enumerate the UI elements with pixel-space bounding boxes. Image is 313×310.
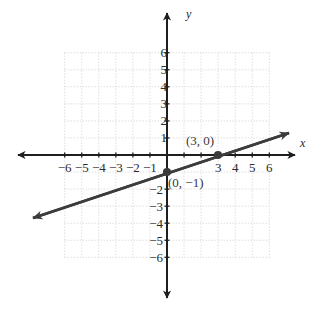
x-tick-label: 5 bbox=[243, 161, 261, 174]
y-tick-label: −5 bbox=[145, 234, 163, 247]
x-tick-label: −3 bbox=[107, 161, 125, 174]
point-3-0 bbox=[214, 151, 222, 159]
y-tick-label: 2 bbox=[149, 114, 167, 127]
y-tick-label: 3 bbox=[149, 97, 167, 110]
x-axis-letter: x bbox=[300, 137, 305, 149]
x-tick-label: 6 bbox=[260, 161, 278, 174]
point-label-3-0: (3, 0) bbox=[186, 134, 214, 147]
y-tick-label: −2 bbox=[145, 183, 163, 196]
x-tick-label: 3 bbox=[209, 161, 227, 174]
coordinate-plane-figure: −6−5−4−3−2−13456654321−2−3−4−5−6 y x (3,… bbox=[0, 0, 313, 310]
y-tick-label: −6 bbox=[145, 251, 163, 264]
x-tick-label: −4 bbox=[90, 161, 108, 174]
x-tick-label: −6 bbox=[56, 161, 74, 174]
y-tick-label: 5 bbox=[149, 63, 167, 76]
y-tick-label: 4 bbox=[149, 80, 167, 93]
y-tick-label: −3 bbox=[145, 200, 163, 213]
y-tick-label: −4 bbox=[145, 217, 163, 230]
y-tick-label: 6 bbox=[149, 46, 167, 59]
y-tick-label: 1 bbox=[149, 131, 167, 144]
x-tick-label: 4 bbox=[226, 161, 244, 174]
x-tick-label: −5 bbox=[73, 161, 91, 174]
x-tick-label: −1 bbox=[141, 161, 159, 174]
x-tick-label: −2 bbox=[124, 161, 142, 174]
y-axis-letter: y bbox=[186, 8, 191, 20]
point-label-0-neg1: (0, −1) bbox=[168, 176, 204, 189]
